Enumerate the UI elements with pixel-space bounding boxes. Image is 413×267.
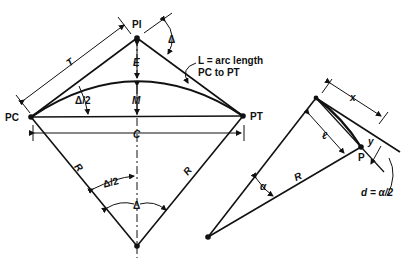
long-chord	[31, 116, 243, 117]
label-l: ℓ	[322, 130, 328, 141]
label-external: E	[133, 57, 140, 68]
label-pi: PI	[132, 19, 142, 30]
label-half-delta-top: Δ/2	[75, 95, 91, 106]
label-y: y	[367, 136, 374, 147]
label-half-delta-center: Δ/2	[102, 175, 120, 190]
label-delta-center: Δ	[133, 200, 140, 211]
label-radius-left: R	[72, 161, 86, 174]
label-x: x	[349, 92, 356, 103]
detail-radius-lower	[208, 147, 361, 237]
point-pi	[134, 35, 140, 41]
curve-diagram: PI PC PT T Δ Δ/2 E M C R R Δ/2 Δ L = arc…	[0, 0, 413, 267]
detail-figure	[208, 79, 400, 237]
points	[28, 35, 364, 249]
label-alpha: α	[260, 181, 267, 192]
label-delta: Δ	[168, 34, 175, 45]
label-pt: PT	[250, 111, 263, 122]
arc-note-line2: PC to PT	[198, 67, 240, 78]
point-pt	[240, 113, 246, 119]
main-curve-figure	[16, 13, 244, 258]
label-middle-ordinate: M	[132, 95, 141, 106]
label-pc: PC	[5, 112, 19, 123]
main-labels: PI PC PT T Δ Δ/2 E M C R R Δ/2 Δ L = arc…	[5, 19, 263, 211]
label-radius-right: R	[181, 164, 195, 177]
arc-note-line1: L = arc length	[198, 55, 263, 66]
radius-left	[31, 117, 137, 246]
point-center	[134, 243, 140, 249]
label-deflection: d = α/2	[361, 187, 393, 198]
label-p: P	[358, 152, 365, 163]
label-chord: C	[133, 129, 141, 140]
point-pc	[28, 114, 34, 120]
